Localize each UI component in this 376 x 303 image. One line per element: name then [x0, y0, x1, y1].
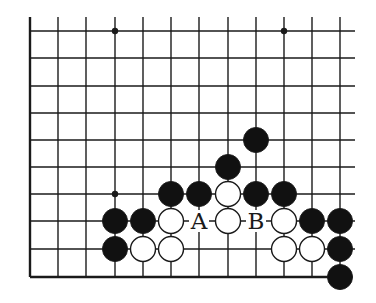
- white-stone: [216, 182, 241, 207]
- star-point-icon: [112, 28, 118, 34]
- point-label-b: B: [248, 208, 265, 234]
- black-stone: [103, 209, 128, 234]
- white-stone: [300, 237, 325, 262]
- white-stone: [272, 209, 297, 234]
- star-point-icon: [112, 191, 118, 197]
- white-stone: [272, 237, 297, 262]
- black-stone: [216, 155, 241, 180]
- black-stone: [159, 182, 184, 207]
- black-stone: [244, 182, 269, 207]
- white-stone: [216, 209, 241, 234]
- black-stone: [272, 182, 297, 207]
- black-stone: [328, 265, 353, 290]
- black-stone: [244, 128, 269, 153]
- black-stone: [187, 182, 212, 207]
- white-stone: [159, 209, 184, 234]
- white-stone: [131, 237, 156, 262]
- black-stone: [103, 237, 128, 262]
- point-label-a: A: [190, 208, 208, 234]
- black-stone: [328, 209, 353, 234]
- star-point-icon: [281, 28, 287, 34]
- black-stone: [328, 237, 353, 262]
- black-stone: [300, 209, 325, 234]
- black-stone: [131, 209, 156, 234]
- white-stone: [159, 237, 184, 262]
- go-board-diagram: AB: [0, 0, 376, 303]
